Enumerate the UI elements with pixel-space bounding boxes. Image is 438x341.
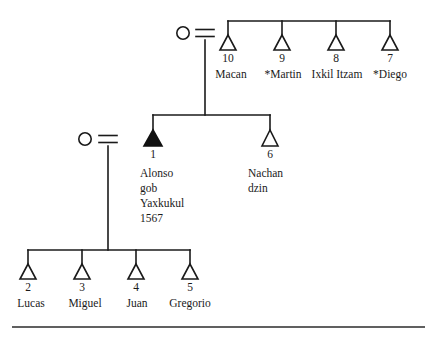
person-4-name: Juan	[126, 296, 147, 311]
person-1-number: 1	[150, 147, 156, 162]
person-9-triangle	[274, 35, 290, 50]
person-2-name: Lucas	[17, 296, 44, 311]
person-3-triangle	[74, 264, 90, 279]
person-6-triangle	[262, 130, 278, 146]
person-10-triangle	[220, 35, 236, 50]
kinship-diagram-graphics	[0, 0, 438, 341]
person-1-name-line-4: 1567	[140, 211, 163, 226]
person-10-name: Macan	[215, 67, 246, 82]
person-1-name-line-2: gob	[140, 181, 157, 196]
kinship-chart: 10 9 8 7 Macan *Martin Ixkil Itzam *Dieg…	[0, 0, 438, 341]
person-1-name-line-3: Yaxkukul	[140, 196, 184, 211]
person-5-triangle	[182, 264, 198, 279]
person-6-name-line-1: Nachan	[248, 166, 283, 181]
person-2-number: 2	[25, 280, 31, 295]
person-10-number: 10	[222, 51, 234, 66]
person-9-name: *Martin	[264, 67, 301, 82]
person-8-number: 8	[333, 51, 339, 66]
person-7-name: *Diego	[373, 67, 407, 82]
person-8-triangle	[328, 35, 344, 50]
person-5-number: 5	[187, 280, 193, 295]
person-5-name: Gregorio	[169, 296, 211, 311]
person-9-number: 9	[279, 51, 285, 66]
g1-wife-circle	[177, 27, 189, 39]
person-7-number: 7	[387, 51, 393, 66]
person-3-name: Miguel	[68, 296, 101, 311]
g2-wife-circle	[79, 133, 91, 145]
person-1-triangle-filled	[144, 130, 162, 146]
person-6-name-line-2: dzin	[248, 181, 268, 196]
person-7-triangle	[382, 35, 398, 50]
person-1-name-line-1: Alonso	[140, 166, 173, 181]
person-6-number: 6	[267, 147, 273, 162]
person-2-triangle	[20, 264, 36, 279]
person-4-number: 4	[133, 280, 139, 295]
person-4-triangle	[128, 264, 144, 279]
person-8-name: Ixkil Itzam	[312, 67, 363, 82]
person-3-number: 3	[79, 280, 85, 295]
